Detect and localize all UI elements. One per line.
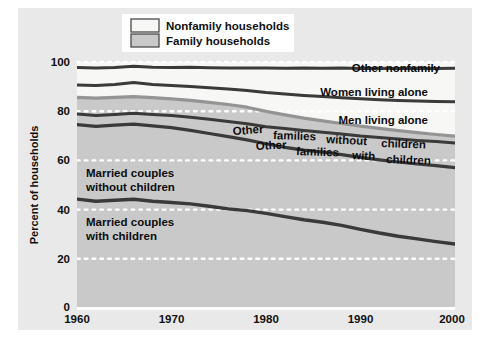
annotation-ofwc-word-children: children	[386, 153, 431, 167]
legend-swatch-family	[131, 34, 159, 47]
y-axis-title: Percent of households	[28, 126, 40, 245]
xtick-label-1970: 1970	[159, 313, 185, 325]
annotation-other-nonfamily: Other nonfamily	[352, 62, 441, 74]
ytick-label-40: 40	[57, 204, 70, 216]
ytick-label-60: 60	[57, 154, 70, 166]
annotation-men-living-alone: Men living alone	[339, 114, 428, 126]
legend: Nonfamily households Family households	[122, 14, 294, 52]
annotation-mcwoc-line2: without children	[85, 181, 175, 193]
annotation-mcwoc-line1: Married couples	[86, 167, 174, 179]
ytick-label-0: 0	[64, 301, 70, 313]
xtick-label-1980: 1980	[253, 313, 279, 325]
legend-label-family: Family households	[166, 35, 270, 47]
annotation-ofwc-word-with: with	[351, 149, 376, 162]
chart-stage: 100 80 60 40 20 0 1960 1970 1980 1990 20…	[0, 0, 486, 345]
legend-swatch-nonfamily	[131, 19, 159, 32]
annotation-ofwoc-word-other: Other	[232, 123, 264, 137]
ytick-label-80: 80	[57, 105, 70, 117]
xtick-label-1990: 1990	[348, 313, 374, 325]
xtick-label-1960: 1960	[64, 313, 90, 325]
ytick-label-100: 100	[51, 56, 70, 68]
annotation-ofwc-word-other: Other	[255, 138, 287, 152]
annotation-mcwc-line2: with children	[85, 230, 157, 242]
xtick-label-2000: 2000	[439, 313, 465, 325]
annotation-women-living-alone: Women living alone	[320, 86, 428, 98]
figure-svg: 100 80 60 40 20 0 1960 1970 1980 1990 20…	[0, 0, 486, 345]
annotation-ofwoc-word-children: children	[381, 137, 426, 151]
ytick-label-20: 20	[57, 253, 70, 265]
annotation-ofwc-word-families: families	[296, 145, 339, 158]
annotation-ofwoc-word-without: without	[325, 133, 368, 147]
legend-label-nonfamily: Nonfamily households	[166, 20, 289, 32]
annotation-mcwc-line1: Married couples	[86, 216, 174, 228]
